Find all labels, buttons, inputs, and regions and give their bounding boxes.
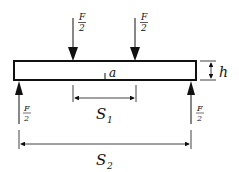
svg-text:F: F <box>78 12 86 22</box>
svg-text:2: 2 <box>23 114 29 123</box>
load-arrow-right <box>130 18 140 61</box>
svg-text:h: h <box>219 64 228 80</box>
svg-text:2: 2 <box>140 23 147 33</box>
svg-text:F: F <box>23 104 30 113</box>
support-arrow-right <box>187 81 195 124</box>
svg-text:F: F <box>196 104 203 113</box>
height-dimension: h <box>200 61 228 80</box>
load-label-top-left: F 2 <box>78 12 86 33</box>
svg-text:S: S <box>96 151 106 169</box>
inner-span-dimension: S 1 <box>73 85 136 125</box>
svg-text:S: S <box>96 105 106 123</box>
support-label-left: F 2 <box>23 104 31 123</box>
svg-text:F: F <box>140 12 148 22</box>
svg-text:2: 2 <box>78 23 85 33</box>
support-arrow-left <box>15 81 23 124</box>
beam-diagram: a F 2 F 2 F 2 F 2 S <box>0 0 239 172</box>
support-label-right: F 2 <box>196 104 204 123</box>
load-arrow-left <box>68 18 78 61</box>
svg-text:1: 1 <box>107 115 113 125</box>
load-label-top-right: F 2 <box>140 12 148 33</box>
outer-span-dimension: S 2 <box>19 130 191 171</box>
svg-text:2: 2 <box>196 114 202 123</box>
crack-label: a <box>109 66 116 80</box>
svg-text:2: 2 <box>106 161 113 171</box>
